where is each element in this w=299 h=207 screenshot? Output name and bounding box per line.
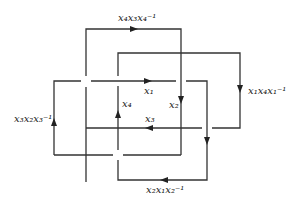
label-x2: x₂	[169, 100, 179, 110]
label-right: x₁x₄x₁⁻¹	[248, 86, 286, 96]
x1-strand	[54, 81, 207, 180]
arrow-left-bottom	[160, 177, 168, 183]
arrow-down-bottom	[204, 137, 210, 145]
label-x3: x₃	[145, 114, 155, 124]
arrow-down-x2	[178, 96, 184, 104]
arrow-right-x1	[144, 78, 152, 84]
label-x4: x₄	[122, 99, 132, 109]
label-top: x₄x₃x₄⁻¹	[118, 13, 156, 23]
arrow-down-right	[237, 85, 243, 93]
loop-diagram	[0, 0, 299, 207]
right-loop	[118, 53, 240, 128]
label-x1: x₁	[144, 86, 154, 96]
arrow-right-top	[130, 26, 138, 32]
top-loop	[86, 29, 181, 182]
label-left: x₃x₂x₃⁻¹	[14, 114, 52, 124]
arrow-left-x3	[145, 125, 153, 131]
arrow-up-x4	[115, 110, 121, 118]
label-bottom: x₂x₁x₂⁻¹	[146, 185, 184, 195]
